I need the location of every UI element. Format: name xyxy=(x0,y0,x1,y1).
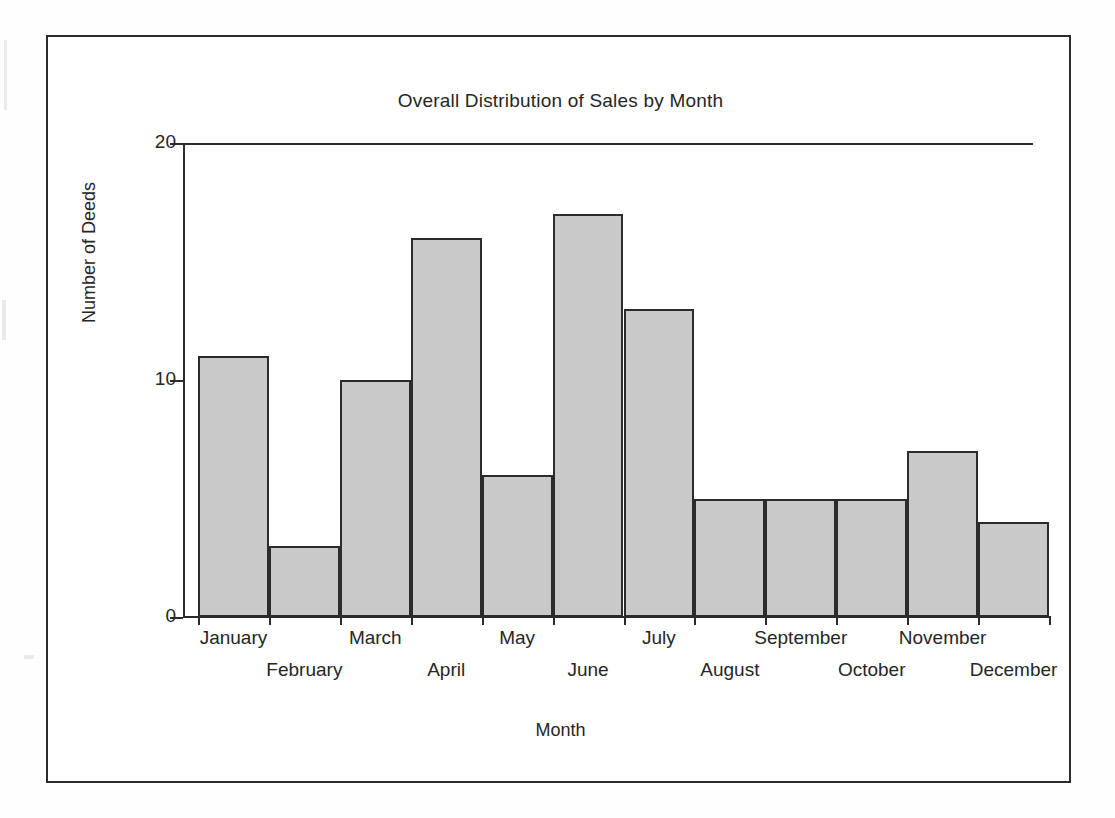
x-label-december: December xyxy=(970,659,1058,681)
y-axis-title: Number of Deeds xyxy=(79,182,100,323)
x-tick-mark xyxy=(482,616,484,625)
x-tick-mark xyxy=(836,616,838,625)
x-tick-mark xyxy=(978,616,980,625)
x-tick-mark xyxy=(269,616,271,625)
x-label-march: March xyxy=(349,627,402,649)
x-tick-mark xyxy=(765,616,767,625)
x-label-january: January xyxy=(200,627,268,649)
bar-july xyxy=(624,309,695,617)
x-tick-mark xyxy=(1049,616,1051,625)
x-tick-mark xyxy=(340,616,342,625)
y-tick-label: 0 xyxy=(165,605,176,627)
x-label-september: September xyxy=(754,627,847,649)
bar-may xyxy=(482,475,553,617)
bar-september xyxy=(765,499,836,618)
x-label-october: October xyxy=(838,659,906,681)
scan-artifact xyxy=(4,40,7,110)
x-tick-mark xyxy=(624,616,626,625)
y-tick-label: 10 xyxy=(155,368,176,390)
x-tick-mark xyxy=(694,616,696,625)
y-axis-spine xyxy=(183,143,185,618)
x-axis-labels: JanuaryFebruaryMarchAprilMayJuneJulyAugu… xyxy=(198,627,1049,697)
bar-february xyxy=(269,546,340,617)
bar-november xyxy=(907,451,978,617)
x-label-may: May xyxy=(499,627,535,649)
scanned-page: Overall Distribution of Sales by Month N… xyxy=(0,0,1115,818)
scan-artifact xyxy=(2,300,6,340)
y-tick-label: 20 xyxy=(155,131,176,153)
x-label-february: February xyxy=(266,659,342,681)
x-axis-title: Month xyxy=(48,720,1073,741)
bar-august xyxy=(694,499,765,618)
bar-march xyxy=(340,380,411,617)
figure-frame: Overall Distribution of Sales by Month N… xyxy=(46,35,1071,783)
plot-area: Number of Deeds 01020 JanuaryFebruaryMar… xyxy=(183,143,1073,653)
chart-title: Overall Distribution of Sales by Month xyxy=(48,90,1073,112)
x-tick-mark xyxy=(411,616,413,625)
bar-june xyxy=(553,214,624,617)
x-label-april: April xyxy=(427,659,465,681)
x-label-august: August xyxy=(700,659,759,681)
x-label-june: June xyxy=(567,659,608,681)
x-label-november: November xyxy=(899,627,987,649)
x-tick-mark xyxy=(198,616,200,625)
bar-april xyxy=(411,238,482,617)
scan-artifact xyxy=(24,655,34,659)
x-label-july: July xyxy=(642,627,676,649)
bar-series xyxy=(198,143,1049,617)
bar-january xyxy=(198,356,269,617)
x-tick-mark xyxy=(553,616,555,625)
x-tick-mark xyxy=(907,616,909,625)
bar-december xyxy=(978,522,1049,617)
bar-october xyxy=(836,499,907,618)
